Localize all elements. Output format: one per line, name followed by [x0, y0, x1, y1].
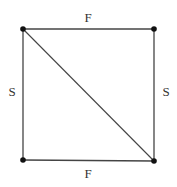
label-right: S [162, 84, 169, 99]
label-top: F [84, 10, 91, 25]
edge-diagonal [23, 29, 154, 161]
label-left: S [8, 84, 15, 99]
label-bottom: F [84, 166, 91, 181]
square-diagram: F F S S [0, 0, 177, 187]
vertex-top-right [151, 26, 157, 32]
vertex-bottom-right [151, 158, 157, 164]
edge-bottom [23, 160, 154, 161]
vertex-top-left [20, 26, 26, 32]
vertex-bottom-left [20, 157, 26, 163]
